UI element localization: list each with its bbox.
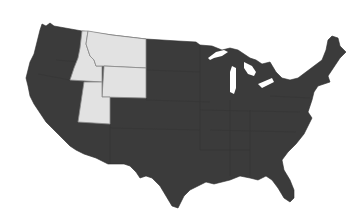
lake-michigan xyxy=(230,66,236,94)
state-wyoming[interactable] xyxy=(102,66,146,98)
state-montana[interactable] xyxy=(86,31,146,68)
us-map xyxy=(0,0,364,224)
us-landmass xyxy=(26,23,346,208)
